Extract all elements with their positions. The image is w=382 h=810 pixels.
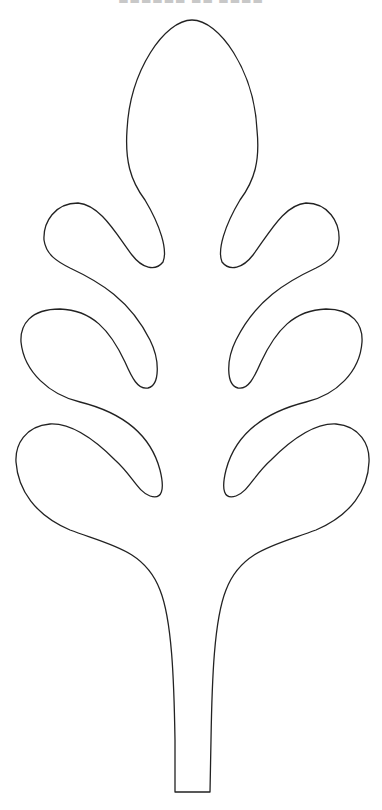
leaf-outline — [0, 0, 382, 810]
leaf-shape — [16, 20, 369, 792]
